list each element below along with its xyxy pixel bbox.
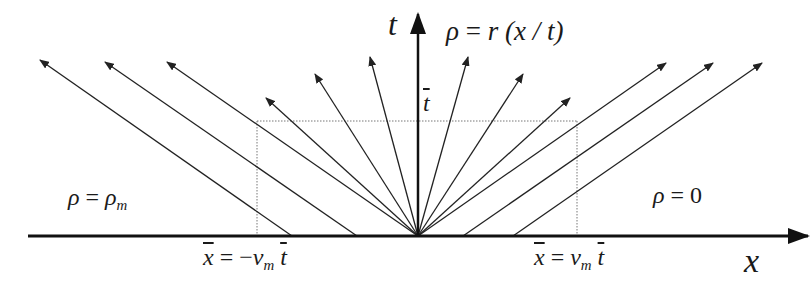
rho-symbol: ρ xyxy=(653,182,665,208)
t-bar: t xyxy=(598,244,605,270)
left-marker-label: x = −vm t xyxy=(203,244,287,271)
fan-region-label: ρ = r (x / t) xyxy=(446,16,563,47)
rho-symbol: ρ xyxy=(446,16,459,46)
x-bar: x xyxy=(203,244,214,270)
characteristics-diagram: t x t ρ = ρm ρ = 0 ρ = r (x / t) x = −vm… xyxy=(0,0,810,290)
equals-sign: = xyxy=(671,182,685,208)
x-bar: x xyxy=(534,244,545,270)
v-symbol: v xyxy=(570,244,581,270)
zero-value: 0 xyxy=(690,182,702,208)
subscript-m: m xyxy=(581,257,592,273)
right-marker-label: x = vm t xyxy=(534,244,604,271)
left-region-label: ρ = ρm xyxy=(68,184,127,211)
r-function: r xyxy=(488,16,499,46)
subscript-m: m xyxy=(117,197,128,213)
equals-sign: = xyxy=(466,16,481,46)
equals-sign: = xyxy=(86,184,100,210)
right-region-label: ρ = 0 xyxy=(653,182,702,209)
rho-symbol: ρ xyxy=(105,184,117,210)
t-bar: t xyxy=(280,244,287,270)
t-bar-label: t xyxy=(423,90,430,117)
rho-symbol: ρ xyxy=(68,184,80,210)
function-argument: (x / t) xyxy=(505,16,563,46)
right-characteristics xyxy=(418,63,762,236)
t-axis-label: t xyxy=(388,6,397,43)
equals-minus: = − xyxy=(220,244,253,270)
v-symbol: v xyxy=(253,244,264,270)
subscript-m: m xyxy=(263,257,274,273)
x-axis-label: x xyxy=(744,242,759,280)
equals-sign: = xyxy=(551,244,565,270)
diagram-graphics xyxy=(0,0,810,290)
